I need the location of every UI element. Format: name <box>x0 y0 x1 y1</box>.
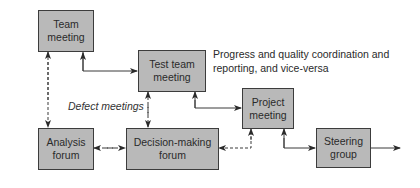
node-label: Test team meeting <box>149 58 195 84</box>
progress-note: Progress and quality coordination and re… <box>213 48 389 75</box>
diagram-canvas: Team meeting Test team meeting Project m… <box>0 0 420 188</box>
edge-team-to-test-team <box>83 52 137 71</box>
node-label: Analysis forum <box>46 136 85 162</box>
node-label: Steering group <box>324 135 363 161</box>
defect-meetings-label: Defect meetings <box>68 100 144 112</box>
edge-project-to-decision <box>219 136 251 148</box>
node-steering-group: Steering group <box>316 128 371 168</box>
node-decision-forum: Decision-making forum <box>126 128 219 170</box>
node-project-meeting: Project meeting <box>242 88 294 129</box>
node-test-team-meeting: Test team meeting <box>138 50 206 92</box>
edge-test-team-to-project <box>195 100 241 108</box>
node-analysis-forum: Analysis forum <box>38 128 94 170</box>
edge-project-to-steering <box>284 138 315 148</box>
node-label: Decision-making forum <box>134 136 212 162</box>
node-label: Team meeting <box>47 18 84 44</box>
node-team-meeting: Team meeting <box>38 10 94 52</box>
node-label: Project meeting <box>249 96 286 122</box>
